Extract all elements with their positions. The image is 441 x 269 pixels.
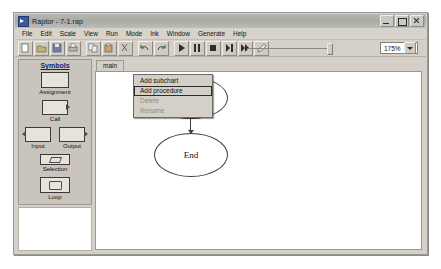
undo-icon[interactable] <box>138 41 153 56</box>
sidebar-item-label: Loop <box>48 194 61 200</box>
context-menu: Add subchart Add procedure Delete Rename <box>133 74 213 118</box>
cut-icon[interactable] <box>118 41 133 56</box>
menu-item-window[interactable]: Window <box>163 28 194 39</box>
input-symbol <box>25 127 51 142</box>
menu-item-scale[interactable]: Scale <box>56 28 80 39</box>
zoom-slider-handle[interactable] <box>327 43 333 55</box>
symbols-row-io: Input Output <box>19 127 91 149</box>
title-bar: Raptor - 7-1.rap <box>15 14 426 28</box>
menu-item-run[interactable]: Run <box>102 28 122 39</box>
print-icon[interactable] <box>66 41 81 56</box>
call-symbol <box>42 100 68 115</box>
menu-item-mode[interactable]: Mode <box>122 28 146 39</box>
diamond-symbol <box>40 154 70 165</box>
application-window: Raptor - 7-1.rap File Edit Scale View Ru… <box>13 12 428 255</box>
window-title: Raptor - 7-1.rap <box>32 18 83 25</box>
minimize-icon[interactable] <box>380 15 394 27</box>
menu-item-view[interactable]: View <box>80 28 102 39</box>
zoom-level-combobox[interactable]: 175% <box>380 42 418 54</box>
symbols-list: Assignment Call Input O <box>19 72 91 200</box>
close-icon[interactable] <box>410 15 424 27</box>
tab-main[interactable]: main <box>96 60 124 71</box>
sidebar-item-label: Input <box>31 143 44 149</box>
pause-icon[interactable] <box>190 41 205 56</box>
menu-item-help[interactable]: Help <box>229 28 250 39</box>
sidebar-item-input[interactable]: Input <box>25 127 51 149</box>
symbols-row-loop: Loop <box>19 177 91 200</box>
sidebar-item-label: Assignment <box>39 89 70 95</box>
menu-item-generate[interactable]: Generate <box>194 28 229 39</box>
stop-icon[interactable] <box>206 41 221 56</box>
step-icon[interactable] <box>222 41 237 56</box>
context-menu-item-delete[interactable]: Delete <box>134 96 212 106</box>
sidebar-empty-panel <box>18 207 92 251</box>
end-node-label: End <box>184 150 199 160</box>
context-menu-item-rename[interactable]: Rename <box>134 106 212 116</box>
copy-icon[interactable] <box>86 41 101 56</box>
menu-item-ink[interactable]: Ink <box>146 28 163 39</box>
open-icon[interactable] <box>34 41 49 56</box>
zoom-level-value: 175% <box>381 45 404 52</box>
raptor-app-icon <box>18 16 29 27</box>
symbols-panel-title: Symbols <box>19 62 91 69</box>
menu-item-edit[interactable]: Edit <box>36 28 55 39</box>
loop-symbol <box>40 177 70 193</box>
output-symbol <box>59 127 85 142</box>
maximize-icon[interactable] <box>395 15 409 27</box>
end-node[interactable]: End <box>154 133 228 177</box>
save-icon[interactable] <box>50 41 65 56</box>
play-icon[interactable] <box>174 41 189 56</box>
context-menu-item-add-subchart[interactable]: Add subchart <box>134 76 212 86</box>
sidebar-item-selection[interactable]: Selection <box>40 154 70 172</box>
menu-item-file[interactable]: File <box>18 28 36 39</box>
tab-strip: main <box>94 59 423 71</box>
context-menu-item-add-procedure[interactable]: Add procedure <box>134 86 212 96</box>
zoom-slider[interactable] <box>245 43 365 54</box>
sidebar-item-label: Call <box>50 116 60 122</box>
symbols-row-assignment: Assignment <box>19 72 91 95</box>
symbols-row-selection: Selection <box>19 154 91 172</box>
chevron-down-icon[interactable] <box>404 42 416 54</box>
paste-icon[interactable] <box>102 41 117 56</box>
client-area: Symbols Assignment Call <box>15 57 426 253</box>
sidebar-item-loop[interactable]: Loop <box>40 177 70 200</box>
new-icon[interactable] <box>18 41 33 56</box>
sidebar-item-label: Selection <box>43 166 68 172</box>
zoom-slider-track[interactable] <box>245 43 337 54</box>
redo-icon[interactable] <box>154 41 169 56</box>
symbols-row-call: Call <box>19 100 91 122</box>
sidebar-item-label: Output <box>63 143 81 149</box>
menu-bar: File Edit Scale View Run Mode Ink Window… <box>15 28 426 40</box>
sidebar-item-output[interactable]: Output <box>59 127 85 149</box>
sidebar-item-assignment[interactable]: Assignment <box>39 72 70 95</box>
symbols-panel: Symbols Assignment Call <box>18 59 92 205</box>
rectangle-symbol <box>41 72 69 88</box>
sidebar-item-call[interactable]: Call <box>42 100 68 122</box>
window-controls <box>380 15 424 27</box>
